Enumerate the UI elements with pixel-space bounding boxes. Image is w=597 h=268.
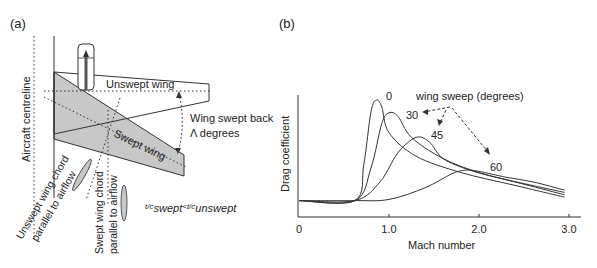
y-axis-label: Drag coefficient xyxy=(279,116,291,192)
x-tick-label: 3.0 xyxy=(561,223,576,235)
x-tick-label: 1.0 xyxy=(381,223,396,235)
x-tick-label: 0 xyxy=(296,223,302,235)
tc-unswept-sub: unswept xyxy=(195,202,237,214)
swept-airfoil-icon xyxy=(121,185,127,221)
unswept-wing-label: Unswept wing xyxy=(106,78,174,90)
figure-canvas: (a) Aircraft centreline Unswept wing Swe… xyxy=(0,0,597,268)
swept-chord-label-2: parallel to airflow xyxy=(107,175,119,254)
curve-label-60: 60 xyxy=(490,161,502,173)
tc-swept-sub: swept xyxy=(153,202,183,214)
panel-b: (b) 01.02.03.0 Drag coefficient Mach num… xyxy=(279,16,581,251)
curve-label-45: 45 xyxy=(431,129,443,141)
sweep-angle-arc xyxy=(178,93,182,152)
legend-title: wing sweep (degrees) xyxy=(415,90,524,102)
tc-unswept-ratio: t/c xyxy=(187,202,195,211)
arc-arrowhead-top-icon xyxy=(176,91,182,98)
centreline-label: Aircraft centreline xyxy=(20,76,32,162)
swept-chord-label-1: Swept wing chord xyxy=(93,171,105,254)
arrowhead-30-icon xyxy=(422,109,428,115)
tc-relation: t/cswept<t/cunswept xyxy=(145,202,237,214)
panel-a: (a) Aircraft centreline Unswept wing Swe… xyxy=(10,16,274,254)
arrowhead-45-icon xyxy=(437,119,443,126)
panel-a-label: (a) xyxy=(10,16,26,31)
drag-curve-sweep-0 xyxy=(299,100,565,203)
curve-label-30: 30 xyxy=(406,109,418,121)
pointer-60 xyxy=(452,108,488,152)
drag-curve-sweep-45 xyxy=(299,137,565,202)
drag-curve-sweep-60 xyxy=(299,170,565,201)
sweep-angle-label-2: Λ degrees xyxy=(190,127,240,139)
sweep-angle-label-1: Wing swept back xyxy=(190,112,274,124)
x-tick-label: 2.0 xyxy=(471,223,486,235)
x-axis-label: Mach number xyxy=(408,239,476,251)
drag-curves xyxy=(299,100,565,203)
curve-label-0: 0 xyxy=(386,90,392,102)
drag-curve-sweep-30 xyxy=(299,112,565,203)
tc-swept-ratio: t/c xyxy=(145,202,153,211)
panel-b-label: (b) xyxy=(279,16,295,31)
